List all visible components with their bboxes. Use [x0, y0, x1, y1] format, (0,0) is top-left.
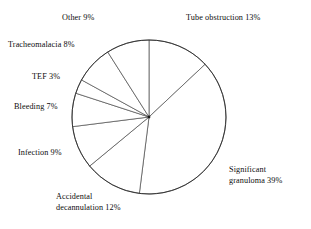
pie-label-infection: Infection 9% [18, 148, 62, 159]
pie-label-accidental-decannulation: Accidental decannulation 12% [56, 192, 156, 213]
pie-chart-figure: Other 9% Tube obstruction 13% Tracheomal… [0, 0, 311, 229]
pie-label-accidental-decannulation-line1: Accidental [56, 192, 92, 201]
pie-label-significant-granuloma-line2: granuloma 39% [229, 176, 282, 185]
pie-label-bleeding: Bleeding 7% [14, 102, 58, 113]
pie-label-accidental-decannulation-line2: decannulation 12% [56, 203, 121, 212]
pie-label-other: Other 9% [62, 13, 94, 24]
pie-label-tube-obstruction: Tube obstruction 13% [186, 13, 260, 24]
pie-label-tef: TEF 3% [32, 72, 60, 83]
pie-label-tracheomalacia: Tracheomalacia 8% [8, 40, 75, 51]
pie-center-dot [148, 116, 151, 119]
pie-label-significant-granuloma: Significant granuloma 39% [229, 165, 307, 186]
pie-label-significant-granuloma-line1: Significant [229, 165, 266, 174]
